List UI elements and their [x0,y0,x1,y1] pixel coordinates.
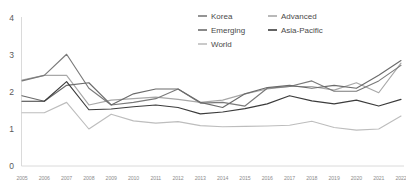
x-axis-tick-labels: 2005200620072008200920102011201220132014… [16,175,406,181]
legend-label-asia-pacific: Asia-Pacific [281,26,323,35]
x-tick-label-2007: 2007 [61,175,72,181]
x-tick-label-2012: 2012 [172,175,183,181]
series-layer [22,54,401,130]
x-tick-label-2015: 2015 [239,175,250,181]
chart-legend: KoreaEmergingWorldAdvancedAsia-Pacific [198,12,323,49]
y-tick-label-1: 1 [9,124,14,134]
legend-item-world[interactable]: World [198,40,232,49]
legend-label-advanced: Advanced [281,12,317,21]
x-tick-label-2022: 2022 [395,175,406,181]
legend-label-korea: Korea [211,12,233,21]
x-tick-label-2018: 2018 [306,175,317,181]
x-tick-label-2005: 2005 [16,175,27,181]
x-tick-label-2016: 2016 [262,175,273,181]
legend-item-asia-pacific[interactable]: Asia-Pacific [268,26,323,35]
x-tick-label-2010: 2010 [128,175,139,181]
x-tick-label-2013: 2013 [195,175,206,181]
x-tick-label-2021: 2021 [373,175,384,181]
legend-item-emerging[interactable]: Emerging [198,26,245,35]
legend-item-korea[interactable]: Korea [198,12,233,21]
x-tick-label-2008: 2008 [83,175,94,181]
y-axis-tick-labels: 4 3 2 1 0 [9,13,14,171]
y-tick-label-4: 4 [9,13,14,23]
legend-item-advanced[interactable]: Advanced [268,12,317,21]
y-tick-label-2: 2 [9,87,14,97]
x-tick-label-2009: 2009 [106,175,117,181]
legend-label-world: World [211,40,232,49]
x-tick-label-2006: 2006 [39,175,50,181]
x-tick-label-2020: 2020 [351,175,362,181]
series-line-korea [22,54,401,106]
x-tick-label-2019: 2019 [329,175,340,181]
x-tick-label-2011: 2011 [150,175,161,181]
series-line-world [22,102,401,130]
line-chart: 4 3 2 1 0 200520062007200820092010201120… [0,0,406,181]
chart-canvas: 4 3 2 1 0 200520062007200820092010201120… [0,0,406,181]
legend-label-emerging: Emerging [211,26,245,35]
y-tick-label-0: 0 [9,161,14,171]
x-tick-label-2017: 2017 [284,175,295,181]
x-tick-label-2014: 2014 [217,175,228,181]
series-line-emerging [22,61,401,108]
y-tick-label-3: 3 [9,50,14,60]
